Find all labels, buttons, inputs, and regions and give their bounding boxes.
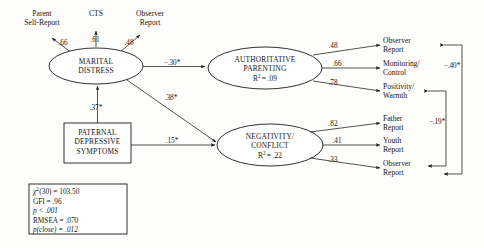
pds-line3: SYMPTOMS: [76, 147, 118, 156]
corr-positivity-observer: [428, 91, 446, 166]
fit-p-value: p < .001: [32, 206, 58, 215]
indicator-observer-report-top-line2: Report: [140, 18, 162, 27]
ap-indicator-paths: [313, 45, 380, 91]
sem-path-diagram: MARITAL DISTRESS PATERNAL DEPRESSIVE SYM…: [0, 0, 484, 248]
pds-line2: DEPRESSIVE: [75, 137, 121, 146]
indicator-youth-report-line2: Report: [383, 145, 405, 154]
loading-ap-monitoring-control: .66: [333, 60, 342, 68]
coef-corr-positivity-observer: −.19*: [429, 118, 446, 126]
latent-marital-distress-line1: MARITAL: [79, 57, 114, 66]
indicator-observer-report-ap-line2: Report: [383, 45, 405, 54]
pds-line1: PATERNAL: [78, 128, 117, 137]
coef-pds-to-nc: .15*: [166, 137, 179, 145]
coef-pds-to-md: .37*: [90, 104, 103, 112]
loading-ap-observer-report: .48: [329, 42, 338, 50]
coef-md-to-ap: −.30*: [164, 59, 181, 67]
loading-nc-observer-report: .33: [329, 156, 338, 164]
indicator-parent-self-report-line2: Self-Report: [24, 18, 60, 27]
coef-corr-observer-observer: −.40*: [444, 62, 461, 70]
loading-md-observer-report: .48: [125, 39, 134, 47]
loading-nc-father-report: .82: [329, 120, 338, 128]
indicator-monitoring-control-line1: Monitoring/: [383, 59, 421, 68]
loading-nc-youth-report: .41: [333, 137, 342, 145]
indicator-youth-report-line1: Youth: [383, 136, 401, 145]
fit-gfi: GFI = .96: [33, 197, 62, 206]
loading-ap-positivity-warmth: .78: [329, 79, 338, 87]
indicator-cts-line1: CTS: [89, 9, 103, 18]
indicator-monitoring-control-line2: Control: [383, 68, 406, 77]
indicator-observer-report-nc-line2: Report: [383, 168, 405, 177]
indicator-observer-report-top-line1: Observer: [136, 9, 164, 18]
latent-nc-line1: NEGATIVITY/: [246, 132, 295, 141]
path-ap-positivity-warmth: [313, 81, 380, 91]
indicator-parent-self-report-line1: Parent: [32, 9, 52, 18]
loading-md-cts: .61: [91, 36, 100, 44]
indicator-positivity-warmth-line1: Positivity/: [383, 82, 415, 91]
indicator-positivity-warmth-line2: Warmth: [383, 91, 407, 100]
fit-rmsea: RMSEA = .070: [33, 216, 79, 225]
indicator-father-report-line1: Father: [383, 114, 403, 123]
latent-ap-line1: AUTHORITATIVE: [235, 55, 296, 64]
indicator-observer-report-ap-line1: Observer: [383, 36, 411, 45]
coef-md-to-nc: .38*: [165, 94, 178, 102]
latent-ap-line2: PARENTING: [244, 64, 287, 73]
fit-chi-square: χ2(30) = 103.50: [32, 186, 80, 196]
path-nc-observer-report: [310, 158, 380, 168]
latent-nc-line2: CONFLICT: [251, 141, 289, 150]
diagram-canvas: MARITAL DISTRESS PATERNAL DEPRESSIVE SYM…: [0, 0, 484, 248]
path-nc-father-report: [310, 123, 380, 132]
indicator-father-report-line2: Report: [383, 123, 405, 132]
fit-p-close: p(close) = .012: [32, 225, 78, 234]
latent-nc-r2: R2= .22: [258, 150, 282, 160]
latent-ap-r2: R2= .09: [253, 73, 277, 83]
indicator-observer-report-nc-line1: Observer: [383, 159, 411, 168]
path-ap-observer-report: [313, 45, 380, 55]
corr-line-19: [428, 91, 446, 166]
path-md-to-nc: [127, 80, 216, 142]
latent-marital-distress-line2: DISTRESS: [78, 66, 114, 75]
loading-md-parent-self-report: .66: [59, 39, 68, 47]
